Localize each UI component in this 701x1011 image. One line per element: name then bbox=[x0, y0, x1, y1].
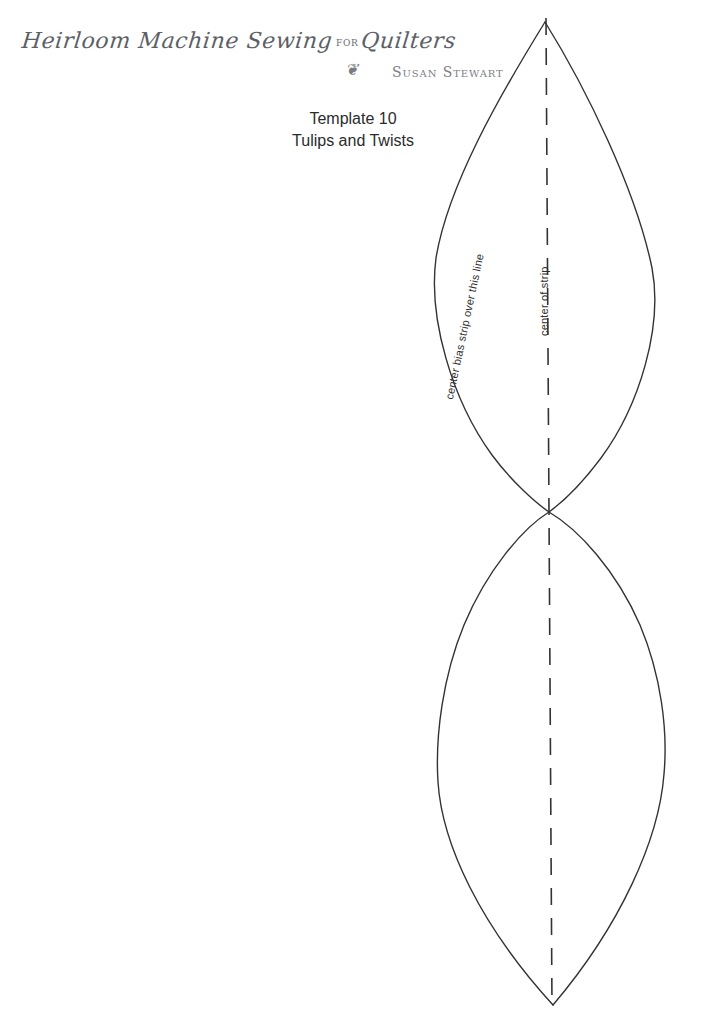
upper-lens-left-curve bbox=[434, 22, 549, 512]
lower-lens-right-curve bbox=[549, 512, 665, 1005]
template-drawing bbox=[0, 0, 701, 1011]
upper-lens-right-curve bbox=[545, 22, 655, 512]
lower-lens-left-curve bbox=[437, 512, 553, 1005]
template-page: Heirloom Machine SewingforQuilters ❦ Sus… bbox=[0, 0, 701, 1011]
center-of-strip-label: center of strip bbox=[538, 266, 550, 336]
